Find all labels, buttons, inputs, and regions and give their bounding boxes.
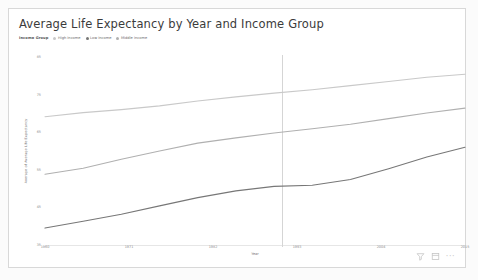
y-tick-label: 65: [17, 130, 41, 134]
series-line: [45, 74, 465, 116]
legend-label-high-income: High income: [58, 36, 81, 40]
chart-plot-area: [9, 9, 478, 280]
focus-mode-icon[interactable]: [431, 252, 440, 261]
x-tick-label: 2015: [448, 245, 478, 249]
y-axis-ticks: 354555657585: [13, 57, 41, 245]
footer-icons: ···: [416, 252, 455, 261]
x-tick-label: 1971: [112, 245, 146, 249]
page-title: Average Life Expectancy by Year and Inco…: [19, 17, 324, 31]
legend: Income Group High income Low income Midd…: [19, 36, 147, 40]
x-tick-label: 1982: [196, 245, 230, 249]
legend-swatch-middle-income: [116, 37, 119, 40]
legend-swatch-high-income: [53, 37, 56, 40]
y-tick-label: 75: [17, 93, 41, 97]
x-tick-label: 1960: [28, 245, 62, 249]
y-tick-label: 85: [17, 55, 41, 59]
screen: Average Life Expectancy by Year and Inco…: [0, 0, 478, 280]
y-tick-label: 55: [17, 168, 41, 172]
x-tick-label: 1993: [280, 245, 314, 249]
more-options-icon[interactable]: ···: [446, 254, 455, 260]
legend-item-high-income[interactable]: High income: [53, 36, 80, 40]
x-axis-title: Year: [45, 252, 465, 256]
chart-card: Average Life Expectancy by Year and Inco…: [8, 8, 466, 268]
y-tick-label: 45: [17, 205, 41, 209]
legend-swatch-low-income: [86, 37, 89, 40]
legend-item-middle-income[interactable]: Middle income: [116, 36, 147, 40]
legend-item-low-income[interactable]: Low income: [86, 36, 112, 40]
legend-label-low-income: Low income: [90, 36, 111, 40]
series-line: [45, 147, 465, 228]
legend-label-middle-income: Middle income: [121, 36, 147, 40]
legend-title: Income Group: [19, 36, 48, 40]
series-line: [45, 108, 465, 174]
x-tick-label: 2004: [364, 245, 398, 249]
reference-line: [282, 55, 283, 247]
filter-icon[interactable]: [416, 252, 425, 261]
